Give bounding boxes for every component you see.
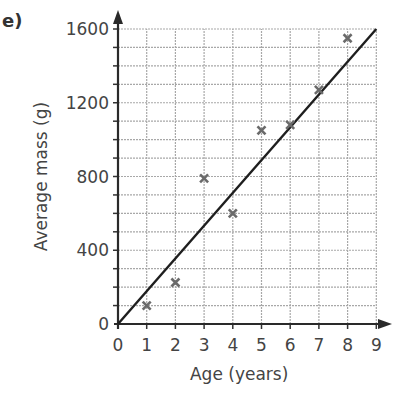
data-point-x-marker [171, 279, 179, 287]
x-axis-arrow-icon [378, 319, 392, 329]
scatter-chart: 0400800120016000123456789Age (years)Aver… [0, 0, 399, 395]
y-tick-label: 1600 [66, 19, 109, 39]
x-axis-title: Age (years) [190, 364, 288, 384]
x-tick-label: 2 [170, 335, 181, 355]
y-tick-label: 1200 [66, 93, 109, 113]
x-tick-label: 8 [342, 335, 353, 355]
y-axis-arrow-icon [113, 10, 123, 24]
y-tick-label: 400 [77, 240, 109, 260]
x-tick-label: 3 [199, 335, 210, 355]
y-axis-title: Average mass (g) [31, 102, 51, 251]
x-tick-label: 4 [227, 335, 238, 355]
x-tick-label: 1 [141, 335, 152, 355]
x-tick-label: 9 [371, 335, 382, 355]
y-tick-label: 800 [77, 167, 109, 187]
x-tick-label: 7 [313, 335, 324, 355]
x-tick-label: 0 [113, 335, 124, 355]
x-tick-label: 5 [256, 335, 267, 355]
y-tick-label: 0 [98, 314, 109, 334]
x-tick-label: 6 [285, 335, 296, 355]
